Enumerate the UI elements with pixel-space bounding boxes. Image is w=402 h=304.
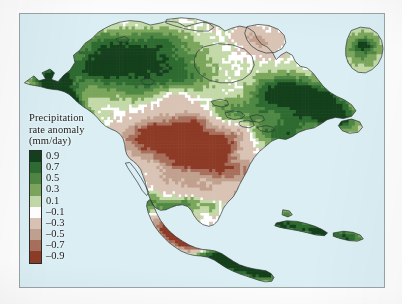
colorbar-swatch bbox=[30, 240, 41, 251]
colorbar-tick-label: –0.5 bbox=[46, 228, 64, 239]
colorbar-swatch bbox=[30, 162, 41, 173]
colorbar-swatch bbox=[30, 229, 41, 240]
colorbar-wrapper: 0.90.70.50.30.1–0.1–0.3–0.5–0.7–0.9 bbox=[29, 150, 124, 264]
colorbar-swatch bbox=[30, 218, 41, 229]
colorbar bbox=[29, 150, 42, 264]
colorbar-swatch bbox=[30, 251, 41, 262]
colorbar-tick-label: 0.3 bbox=[46, 183, 64, 194]
colorbar-swatch bbox=[30, 207, 41, 218]
legend: Precipitation rate anomaly (mm/day) 0.90… bbox=[29, 112, 124, 264]
colorbar-swatch bbox=[30, 196, 41, 207]
colorbar-swatch bbox=[30, 151, 41, 162]
colorbar-tick-label: 0.7 bbox=[46, 161, 64, 172]
colorbar-tick-label: 0.5 bbox=[46, 172, 64, 183]
figure-panel: Precipitation rate anomaly (mm/day) 0.90… bbox=[0, 0, 402, 304]
colorbar-swatch bbox=[30, 184, 41, 195]
legend-title: Precipitation rate anomaly (mm/day) bbox=[29, 112, 124, 147]
colorbar-tick-labels: 0.90.70.50.30.1–0.1–0.3–0.5–0.7–0.9 bbox=[46, 150, 64, 262]
colorbar-tick-label: 0.1 bbox=[46, 195, 64, 206]
colorbar-tick-label: –0.9 bbox=[46, 250, 64, 261]
colorbar-tick-label: 0.9 bbox=[46, 150, 64, 161]
colorbar-tick-label: –0.3 bbox=[46, 217, 64, 228]
colorbar-tick-label: –0.1 bbox=[46, 206, 64, 217]
colorbar-tick-label: –0.7 bbox=[46, 239, 64, 250]
colorbar-swatch bbox=[30, 173, 41, 184]
